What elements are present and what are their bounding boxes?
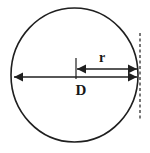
diagram-canvas: r D bbox=[0, 0, 150, 153]
circle-geometry-diagram: r D bbox=[0, 0, 150, 153]
radius-label: r bbox=[99, 50, 105, 65]
diameter-label: D bbox=[76, 82, 87, 98]
